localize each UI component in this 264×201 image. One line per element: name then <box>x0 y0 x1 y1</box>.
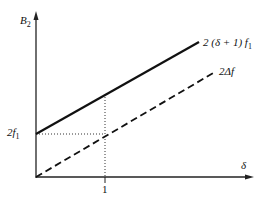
x-axis-label: δ <box>241 159 246 171</box>
solid-series-line <box>36 42 199 134</box>
y-axis-arrow-icon <box>34 11 39 20</box>
solid-series-label: 2 (δ + 1) f1 <box>203 36 252 51</box>
plot-canvas <box>0 0 264 201</box>
x-axis-arrow-icon <box>245 175 254 180</box>
y-tick-label: 2f1 <box>7 126 20 141</box>
dashed-series-label: 2Δf <box>219 65 234 77</box>
x-tick-label: 1 <box>102 183 108 195</box>
y-axis-label: B2 <box>20 14 31 29</box>
dashed-series-line <box>36 72 215 177</box>
